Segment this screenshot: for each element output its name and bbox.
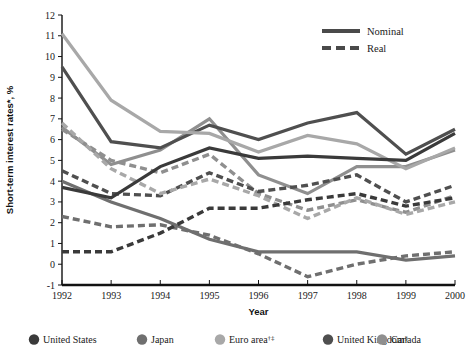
legend-marker-canada (377, 334, 387, 344)
series-line-united-kingdom-nominal (62, 67, 455, 154)
x-axis-tick-label: 2000 (445, 290, 465, 301)
legend-label-japan: Japan (151, 334, 174, 345)
legend-label-united-states: United States (43, 334, 97, 345)
chart-series-lines (62, 34, 455, 277)
y-axis-tick-label: 4 (50, 176, 55, 187)
y-axis-tick-label: 3 (50, 196, 55, 207)
style-legend-label-real: Real (367, 43, 386, 54)
x-axis-title: Year (248, 306, 268, 317)
legend-marker-united-kingdom (323, 334, 333, 344)
x-axis-title-text: Year (248, 306, 268, 317)
y-axis-title: Short-term interest rates*, % (4, 85, 15, 214)
x-axis-tick-label: 1994 (150, 290, 170, 301)
x-axis-tick-label: 1992 (52, 290, 72, 301)
x-axis-tick-label: 1993 (101, 290, 121, 301)
y-axis-tick-label: 2 (50, 217, 55, 228)
legend-label-euro-area: Euro area†‡ (229, 334, 275, 345)
y-axis-title-text: Short-term interest rates*, % (4, 85, 15, 214)
x-axis-tick-label: 1999 (396, 290, 416, 301)
series-line-canada-nominal (62, 119, 455, 194)
style-legend: NominalReal (322, 26, 404, 54)
series-line-united-states-real (62, 194, 455, 252)
x-axis-tick-label: 1998 (347, 290, 367, 301)
y-axis-tick-label: 12 (45, 10, 55, 21)
legend-label-superscript: †‡ (268, 334, 276, 342)
y-axis-tick-label: 10 (45, 51, 55, 62)
y-axis-tick-label: 6 (50, 134, 55, 145)
series-line-euro-area-nominal (62, 34, 455, 169)
y-axis-tick-label: 5 (50, 155, 55, 166)
y-axis-tick-label: 7 (50, 113, 55, 124)
line-chart: 1211109876543210-11992199319941995199619… (0, 0, 475, 359)
y-axis-tick-label: 8 (50, 93, 55, 104)
legend-marker-japan (137, 334, 147, 344)
legend-label-canada: Canada (391, 334, 422, 345)
y-axis-tick-label: 11 (45, 30, 55, 41)
chart-container: 1211109876543210-11992199319941995199619… (0, 0, 475, 359)
x-axis-tick-label: 1996 (249, 290, 269, 301)
legend-marker-euro-area (215, 334, 225, 344)
series-legend: United StatesJapanEuro area†‡United King… (29, 334, 422, 345)
y-axis-tick-label: 9 (50, 72, 55, 83)
legend-marker-united-states (29, 334, 39, 344)
y-axis-tick-label: -1 (47, 280, 55, 291)
x-axis-tick-label: 1995 (199, 290, 219, 301)
y-axis-tick-label: 1 (50, 238, 55, 249)
y-axis-tick-label: 0 (50, 259, 55, 270)
x-axis-tick-label: 1997 (298, 290, 318, 301)
style-legend-label-nominal: Nominal (367, 26, 404, 37)
